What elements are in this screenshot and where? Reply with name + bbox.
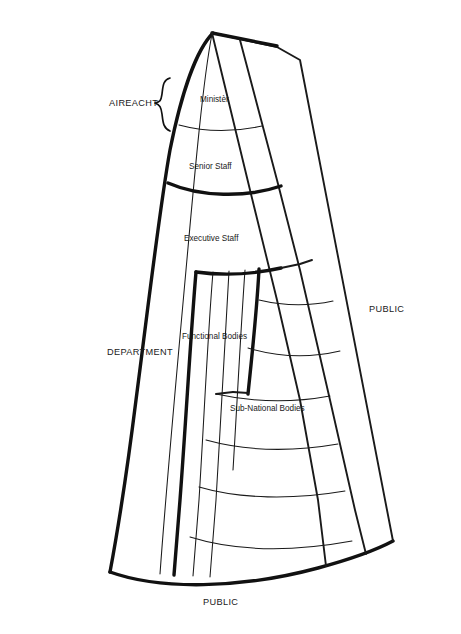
cone-diagram-canvas: AIREACHT Ministèr Senior Staff Executive…	[0, 0, 461, 634]
label-aireacht: AIREACHT	[109, 98, 158, 108]
label-department: DEPARTMENT	[107, 347, 173, 357]
arc-functional-bottom	[233, 392, 248, 393]
label-executive-staff: Executive Staff	[184, 234, 239, 243]
label-functional-bodies: Functional Bodies	[182, 332, 247, 341]
cone-apex-shoulder	[212, 33, 277, 46]
label-sub-national-bodies: Sub-National Bodies	[230, 404, 305, 413]
label-minister: Ministèr	[200, 95, 229, 104]
label-senior-staff: Senior Staff	[189, 162, 232, 171]
label-public-bottom: PUBLIC	[203, 597, 238, 607]
organisation-cone-diagram: AIREACHT Ministèr Senior Staff Executive…	[0, 0, 461, 634]
label-public-right: PUBLIC	[369, 304, 404, 314]
